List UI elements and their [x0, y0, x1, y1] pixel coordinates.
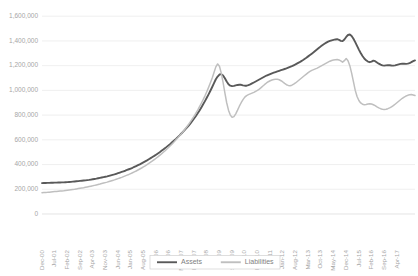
y-axis-tick-label: 200,000: [15, 185, 39, 192]
x-axis-tick-label: Jan-05: [126, 249, 133, 268]
y-axis-tick-labels: 0200,000400,000600,000800,0001,000,0001,…: [9, 12, 38, 217]
x-axis-tick-label: Aug-12: [291, 249, 298, 270]
y-axis-tick-label: 800,000: [15, 111, 39, 118]
y-axis-tick-label: 1,600,000: [9, 12, 38, 19]
y-axis-tick-label: 0: [34, 210, 38, 217]
series-line-liabilities: [42, 58, 415, 192]
line-chart: 0200,000400,000600,000800,0001,000,0001,…: [0, 0, 418, 276]
x-axis-tick-label: Dec-14: [342, 249, 349, 270]
y-axis-tick-label: 1,000,000: [9, 86, 38, 93]
x-axis-tick-label: Jul-15: [355, 249, 362, 266]
y-axis-tick-label: 400,000: [15, 160, 39, 167]
legend-label-assets[interactable]: Assets: [181, 258, 203, 265]
data-series: [42, 35, 415, 193]
x-axis-tick-label: Dec-00: [38, 249, 45, 270]
chart-container: 0200,000400,000600,000800,0001,000,0001,…: [0, 0, 418, 276]
x-axis-tick-label: Apr-03: [88, 249, 95, 268]
x-axis-tick-label: Feb-16: [367, 249, 374, 269]
x-axis-tick-label: Apr-17: [393, 249, 400, 268]
x-axis-tick-label: May-14: [329, 249, 336, 270]
x-axis-tick-label: Aug-05: [139, 249, 146, 270]
x-axis-tick-label: Sep-02: [76, 249, 83, 270]
x-axis-tick-label: Nov-03: [101, 249, 108, 270]
x-axis-tick-label: Jun-04: [114, 249, 121, 268]
y-axis-tick-label: 1,200,000: [9, 61, 38, 68]
chart-legend: AssetsLiabilities: [150, 256, 280, 270]
x-axis-tick-label: Feb-02: [63, 249, 70, 269]
x-axis-tick-label: Sep-16: [380, 249, 387, 270]
x-axis-tick-label: Mar-13: [304, 249, 311, 269]
y-axis-tick-label: 600,000: [15, 136, 39, 143]
x-axis-tick-label: Oct-13: [316, 249, 323, 268]
legend-label-liabilities[interactable]: Liabilities: [245, 258, 274, 265]
x-axis-tick-label: Jul-01: [50, 249, 57, 266]
y-axis-tick-label: 1,400,000: [9, 37, 38, 44]
